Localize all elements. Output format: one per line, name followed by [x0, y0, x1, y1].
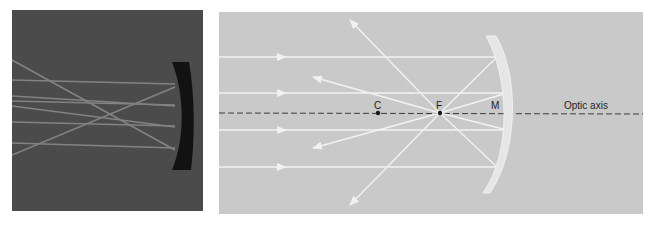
focal-point: [438, 111, 442, 115]
mirror-photo: [12, 10, 203, 211]
optic-axis-line: [219, 113, 643, 114]
center-point: [376, 111, 380, 115]
ray-diagram: C F M Optic axis: [219, 12, 643, 214]
label-mirror: M: [491, 101, 499, 111]
photo-rays-graphic: [12, 10, 203, 211]
photo-mirror-shape: [172, 62, 194, 170]
label-focal-point: F: [436, 101, 442, 111]
label-optic-axis: Optic axis: [564, 101, 608, 111]
label-center-of-curvature: C: [374, 101, 381, 111]
ray-diagram-graphic: [219, 12, 643, 214]
mirror-shape: [483, 36, 513, 193]
